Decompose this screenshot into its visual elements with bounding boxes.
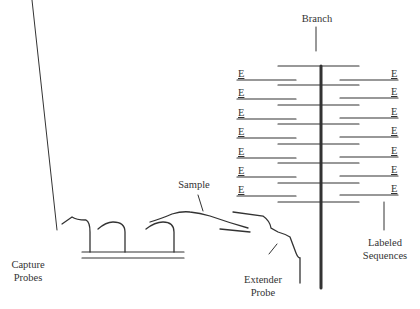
- extender-probe-label-line1: Extender: [238, 273, 288, 286]
- label-mark-right-2: E: [391, 86, 397, 98]
- capture-probes-leader: [32, 0, 57, 230]
- capture-probe-1: [62, 217, 90, 252]
- label-mark-right-6: E: [391, 164, 397, 176]
- label-mark-right-4: E: [391, 125, 397, 137]
- left-labeled-lines: [237, 80, 296, 196]
- label-mark-left-4: E: [238, 126, 244, 138]
- labeled-sequences-label: Labeled Sequences: [357, 236, 413, 262]
- capture-probes-label: Capture Probes: [6, 258, 50, 284]
- amplifier-bars: [278, 66, 359, 202]
- sample-label: Sample: [173, 178, 215, 191]
- labeled-sequences-label-line2: Sequences: [357, 249, 413, 262]
- label-mark-left-7: E: [238, 184, 244, 196]
- label-mark-right-1: E: [391, 68, 397, 80]
- label-mark-right-7: E: [391, 183, 397, 195]
- diagram-canvas: [0, 0, 420, 309]
- sample-leader: [198, 195, 203, 211]
- extender-probe-label-line2: Probe: [238, 286, 288, 299]
- capture-probe-2: [98, 222, 125, 252]
- right-labeled-lines: [340, 80, 398, 195]
- label-mark-left-2: E: [238, 87, 244, 99]
- labeled-sequences-label-line1: Labeled: [357, 236, 413, 249]
- label-mark-left-1: E: [238, 68, 244, 80]
- label-mark-left-3: E: [238, 107, 244, 119]
- label-mark-left-6: E: [238, 165, 244, 177]
- label-mark-left-5: E: [238, 146, 244, 158]
- extender-probe-label: Extender Probe: [238, 273, 288, 299]
- capture-probe-3: [146, 222, 174, 252]
- label-mark-right-5: E: [391, 145, 397, 157]
- capture-probes-label-line1: Capture: [6, 258, 50, 271]
- extender-probe-lower-arm: [220, 229, 250, 232]
- extender-probe-leader: [269, 244, 277, 254]
- capture-probes-label-line2: Probes: [6, 271, 50, 284]
- label-mark-right-3: E: [391, 106, 397, 118]
- branch-label: Branch: [296, 12, 338, 25]
- sample-strand: [150, 212, 248, 228]
